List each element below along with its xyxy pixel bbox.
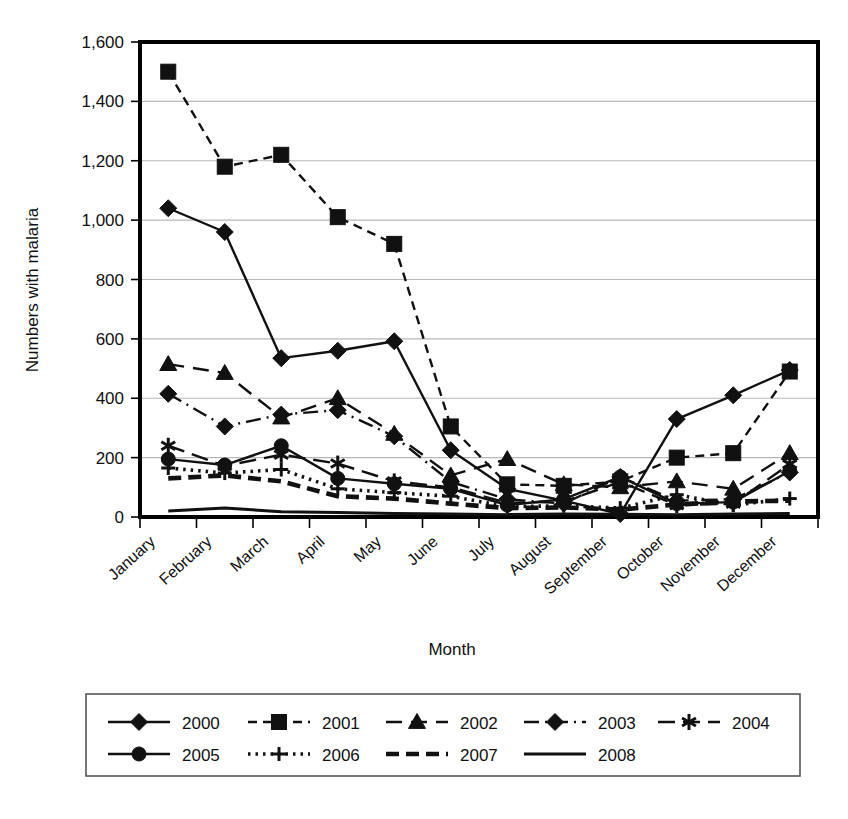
y-tick-label: 800 <box>96 271 124 290</box>
chart-figure: 02004006008001,0001,2001,4001,600 Januar… <box>0 0 848 819</box>
malaria-line-chart: 02004006008001,0001,2001,4001,600 Januar… <box>0 0 848 819</box>
legend-label-2008: 2008 <box>598 746 636 765</box>
legend-label-2007: 2007 <box>460 746 498 765</box>
legend-label-2001: 2001 <box>322 714 360 733</box>
legend-marker-2005 <box>132 747 146 761</box>
marker-2001-February <box>217 159 232 174</box>
y-tick-label: 1,400 <box>81 92 124 111</box>
legend-label-2002: 2002 <box>460 714 498 733</box>
marker-2001-October <box>669 450 684 465</box>
y-axis-title: Numbers with malaria <box>23 207 42 372</box>
marker-2001-March <box>274 147 289 162</box>
x-axis-title: Month <box>428 640 475 659</box>
marker-2001-June <box>443 419 458 434</box>
marker-2005-September <box>613 470 627 484</box>
legend-label-2004: 2004 <box>732 714 770 733</box>
y-tick-label: 200 <box>96 449 124 468</box>
legend-label-2000: 2000 <box>182 714 220 733</box>
y-tick-label: 0 <box>115 508 124 527</box>
y-tick-label: 400 <box>96 389 124 408</box>
legend-label-2005: 2005 <box>182 746 220 765</box>
marker-2001-July <box>500 477 515 492</box>
marker-2005-December <box>783 464 797 478</box>
legend-label-2006: 2006 <box>322 746 360 765</box>
legend-label-2003: 2003 <box>598 714 636 733</box>
y-tick-label: 1,600 <box>81 33 124 52</box>
marker-2001-December <box>782 364 797 379</box>
marker-2001-April <box>330 210 345 225</box>
y-axis-title-group: Numbers with malaria <box>23 207 42 372</box>
marker-2001-November <box>726 446 741 461</box>
marker-2005-March <box>274 439 288 453</box>
x-axis-title-group: Month <box>428 640 475 659</box>
legend: 200020012002200320042005200620072008 <box>86 694 800 776</box>
marker-2001-January <box>161 64 176 79</box>
legend-marker-2001 <box>272 715 287 730</box>
y-tick-label: 1,000 <box>81 211 124 230</box>
marker-2001-May <box>387 236 402 251</box>
y-tick-label: 1,200 <box>81 152 124 171</box>
y-tick-label: 600 <box>96 330 124 349</box>
